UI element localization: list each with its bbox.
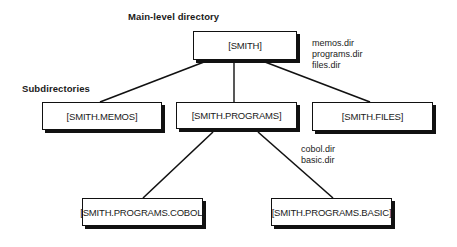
node-memos: [SMITH.MEMOS] bbox=[42, 102, 162, 130]
programs-file-basic: basic.dir bbox=[301, 155, 335, 166]
root-file-programs: programs.dir bbox=[312, 49, 363, 60]
node-cobol: [SMITH.PROGRAMS.COBOL] bbox=[82, 198, 203, 226]
programs-file-cobol: cobol.dir bbox=[301, 144, 335, 155]
edge-root-memos bbox=[100, 62, 204, 102]
node-programs: [SMITH.PROGRAMS] bbox=[176, 102, 297, 129]
node-basic: [SMITH.PROGRAMS.BASIC] bbox=[271, 198, 392, 226]
subdirectories-heading: Subdirectories bbox=[22, 83, 90, 94]
root-file-memos: memos.dir bbox=[312, 38, 363, 49]
node-files: [SMITH.FILES] bbox=[312, 102, 433, 131]
main-level-heading: Main-level directory bbox=[128, 11, 219, 22]
programs-file-list: cobol.dir basic.dir bbox=[301, 144, 335, 166]
edge-programs-cobol bbox=[143, 132, 213, 198]
node-root: [SMITH] bbox=[193, 31, 297, 60]
root-file-list: memos.dir programs.dir files.dir bbox=[312, 38, 363, 71]
root-file-files: files.dir bbox=[312, 60, 363, 71]
